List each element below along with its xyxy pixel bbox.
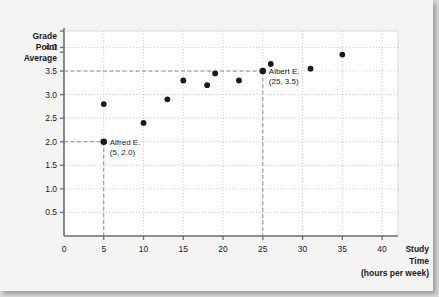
data-point-26-3.65[interactable] (268, 61, 274, 67)
y-tick-label-1.5: 1.5 (45, 160, 57, 170)
x-axis-title-line-2: Time (409, 256, 429, 266)
x-tick-label-10: 10 (139, 244, 149, 254)
y-tick-label-3.0: 3.0 (45, 90, 57, 100)
data-point-10-2.4[interactable] (141, 120, 147, 126)
data-point-25-3.5[interactable] (260, 68, 267, 75)
chart-canvas: 0.51.01.52.02.53.03.54.00510152025303540… (0, 0, 433, 291)
data-point-22-3.3[interactable] (236, 78, 242, 84)
data-point-5-2.8[interactable] (101, 101, 107, 107)
x-tick-label-20: 20 (218, 244, 228, 254)
y-tick-label-0.5: 0.5 (45, 207, 57, 217)
annotation-albert-name: Albert E. (269, 67, 300, 76)
x-tick-label-15: 15 (179, 244, 189, 254)
y-tick-label-1.0: 1.0 (45, 184, 57, 194)
x-tick-label-5: 5 (101, 244, 106, 254)
y-axis-title-line-1: Grade (32, 31, 57, 41)
y-tick-label-3.5: 3.5 (45, 66, 57, 76)
y-tick-label-2.5: 2.5 (45, 113, 57, 123)
annotation-alfred-name: Alfred E. (110, 138, 141, 147)
scatter-chart: 0.51.01.52.02.53.03.54.00510152025303540… (0, 0, 433, 291)
data-point-5-2[interactable] (100, 138, 107, 145)
data-point-18-3.2[interactable] (204, 82, 210, 88)
x-axis-title-line-3: (hours per week) (361, 268, 429, 278)
y-axis-title-line-3: Average (24, 53, 58, 63)
y-axis-title-line-2: Point (36, 42, 57, 52)
data-point-31-3.55[interactable] (308, 66, 314, 72)
x-tick-label-25: 25 (258, 244, 268, 254)
x-axis-title-line-1: Study (405, 244, 429, 254)
figure-page: 0.51.01.52.02.53.03.54.00510152025303540… (0, 0, 433, 291)
data-point-13-2.9[interactable] (164, 96, 170, 102)
annotation-alfred-coords: (5, 2.0) (110, 148, 136, 157)
data-point-15-3.3[interactable] (180, 78, 186, 84)
y-tick-label-2.0: 2.0 (45, 137, 57, 147)
x-tick-label-0: 0 (62, 244, 67, 254)
x-tick-label-30: 30 (298, 244, 308, 254)
x-tick-label-40: 40 (377, 244, 387, 254)
data-point-35-3.85[interactable] (339, 52, 345, 58)
annotation-albert-coords: (25, 3.5) (269, 77, 299, 86)
x-tick-label-35: 35 (338, 244, 348, 254)
plot-background (64, 31, 398, 236)
data-point-19-3.45[interactable] (212, 71, 218, 77)
